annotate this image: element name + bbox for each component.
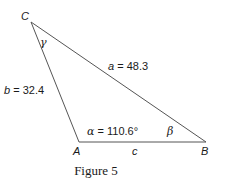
side-b-label: b = 32.4 xyxy=(4,84,44,96)
angle-gamma-label: γ xyxy=(40,36,47,49)
angle-alpha-label: α = 110.6° xyxy=(87,125,138,138)
side-a-value: = 48.3 xyxy=(114,60,148,72)
vertex-label-a: A xyxy=(72,145,80,157)
figure-caption: Figure 5 xyxy=(74,163,118,178)
side-c-label: c xyxy=(132,145,138,157)
alpha-value: = 110.6° xyxy=(94,125,138,137)
side-b-value: = 32.4 xyxy=(10,84,44,96)
vertex-label-c: C xyxy=(21,10,29,22)
vertex-label-b: B xyxy=(201,145,208,157)
side-a-label: a = 48.3 xyxy=(108,60,148,72)
triangle-abc xyxy=(31,22,206,142)
triangle-figure: C A B γ β α = 110.6° a = 48.3 b = 32.4 c… xyxy=(0,0,226,182)
angle-beta-label: β xyxy=(166,125,173,138)
